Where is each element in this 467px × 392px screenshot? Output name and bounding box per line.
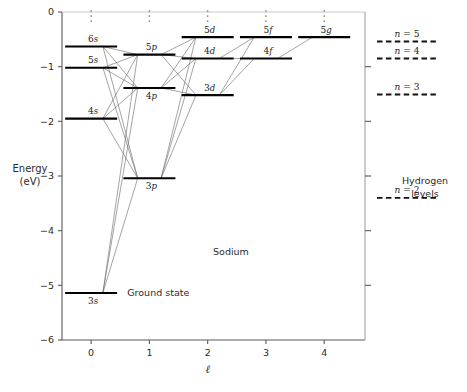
x-tick-label: 2 <box>205 347 211 358</box>
transition-line <box>103 55 138 119</box>
level-label-6s: 6s <box>88 34 99 44</box>
level-label-5s: 5s <box>88 55 99 65</box>
element-label-sodium: Sodium <box>213 246 249 257</box>
ellipsis-dot <box>323 20 325 22</box>
transition-line <box>103 68 138 178</box>
ellipsis-dot <box>323 10 325 12</box>
figure-canvas: 0−1−2−3−4−5−601234ℓEnergy(eV)3s4s5s6s3p4… <box>0 0 467 392</box>
ground-state-label: Ground state <box>127 287 189 298</box>
y-tick-label: −4 <box>40 225 54 236</box>
ellipsis-dot <box>265 15 267 17</box>
transition-line <box>103 46 138 54</box>
transition-line <box>103 178 138 293</box>
transition-line <box>103 119 138 179</box>
ellipsis-dot <box>265 10 267 12</box>
transition-line <box>219 37 254 95</box>
hydrogen-level-label: n = 5 <box>395 29 420 39</box>
transition-line <box>103 46 138 178</box>
y-tick-label: −6 <box>40 334 54 345</box>
ellipsis-dot <box>265 20 267 22</box>
hydrogen-caption-line2: levels <box>411 188 439 199</box>
y-tick-label: −1 <box>40 61 54 72</box>
ellipsis-dot <box>149 20 151 22</box>
x-tick-label: 0 <box>88 347 94 358</box>
level-label-5f: 5f <box>263 25 274 35</box>
transition-line <box>161 58 196 178</box>
ellipsis-dot <box>149 10 151 12</box>
level-label-5d: 5d <box>204 25 216 35</box>
level-label-4p: 4p <box>146 91 158 101</box>
ellipsis-dot <box>90 10 92 12</box>
y-tick-label: −5 <box>40 280 54 291</box>
energy-level-diagram: 0−1−2−3−4−5−601234ℓEnergy(eV)3s4s5s6s3p4… <box>0 0 467 392</box>
transition-line <box>161 37 196 54</box>
level-label-4s: 4s <box>88 106 99 116</box>
y-tick-label: 0 <box>48 6 54 17</box>
level-label-5g: 5g <box>321 25 333 35</box>
hydrogen-level-label: n = 4 <box>395 46 420 56</box>
ellipsis-dot <box>207 10 209 12</box>
ellipsis-dot <box>149 15 151 17</box>
ellipsis-dot <box>90 20 92 22</box>
transition-line <box>219 37 254 58</box>
level-label-3d: 3d <box>204 83 216 93</box>
plot-axes <box>62 12 365 340</box>
hydrogen-level-label: n = 3 <box>395 82 420 92</box>
hydrogen-caption-line1: Hydrogen <box>402 175 448 186</box>
transition-lines-group <box>103 37 313 293</box>
level-label-3p: 3p <box>146 181 158 191</box>
transition-line <box>278 37 313 58</box>
x-axis-title: ℓ <box>205 363 210 376</box>
y-axis-title-units: (eV) <box>20 176 41 187</box>
y-axis-title: Energy <box>12 163 47 174</box>
transition-line <box>219 58 254 95</box>
level-label-4d: 4d <box>204 46 216 56</box>
ellipsis-dot <box>207 20 209 22</box>
level-label-4f: 4f <box>263 46 274 56</box>
level-label-5p: 5p <box>146 42 158 52</box>
ellipsis-dot <box>207 15 209 17</box>
ellipsis-dot <box>90 15 92 17</box>
level-label-3s: 3s <box>88 296 99 306</box>
transition-line <box>103 55 138 293</box>
x-tick-label: 3 <box>263 347 269 358</box>
ellipsis-dot <box>323 15 325 17</box>
x-tick-label: 4 <box>321 347 327 358</box>
transition-line <box>103 88 138 119</box>
y-tick-label: −2 <box>40 116 54 127</box>
x-tick-label: 1 <box>146 347 152 358</box>
